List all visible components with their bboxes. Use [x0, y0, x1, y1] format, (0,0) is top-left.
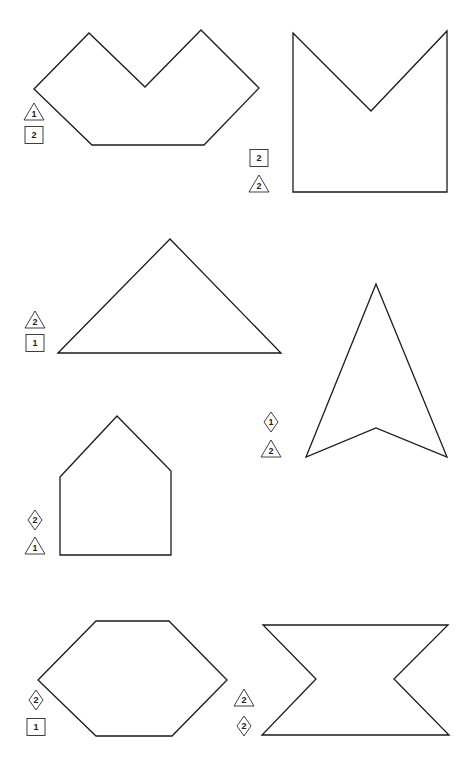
hexagon-outline — [38, 621, 227, 736]
diamond-marker-icon: 2 — [28, 510, 42, 530]
square-marker-icon: 1 — [26, 335, 44, 352]
marker-label: 1 — [32, 543, 37, 553]
figure-hexagon: 21 — [27, 621, 227, 736]
marker-label: 1 — [32, 338, 37, 348]
figure-v-notched-hexagon: 12 — [24, 30, 259, 145]
marker-label: 2 — [256, 153, 261, 163]
triangle-marker-icon: 2 — [261, 440, 281, 457]
triangle-marker-icon: 1 — [24, 103, 44, 120]
square-marker-icon: 1 — [27, 719, 45, 736]
diamond-marker-icon: 2 — [237, 716, 251, 736]
marker-label: 2 — [268, 446, 273, 456]
arrowhead-outline — [306, 284, 447, 457]
marker-label: 2 — [31, 130, 36, 140]
figure-arrowhead: 12 — [261, 284, 447, 457]
square-marker-icon: 2 — [250, 150, 268, 167]
triangle-marker-icon: 2 — [249, 175, 269, 192]
marker-label: 2 — [256, 181, 261, 191]
diamond-marker-icon: 2 — [29, 690, 43, 710]
marker-label: 1 — [33, 722, 38, 732]
figure-canvas: 12222112212122 — [0, 0, 474, 765]
marker-label: 1 — [268, 417, 273, 427]
diamond-marker-icon: 1 — [264, 412, 278, 432]
isosceles-triangle-outline — [58, 239, 281, 353]
figure-notched-bowtie: 22 — [234, 625, 449, 736]
marker-label: 2 — [33, 695, 38, 705]
house-pentagon-outline — [60, 416, 171, 555]
marker-label: 2 — [32, 515, 37, 525]
figure-isosceles-triangle: 21 — [25, 239, 281, 353]
v-notched-hexagon-outline — [34, 30, 259, 145]
square-marker-icon: 2 — [25, 127, 43, 144]
m-notched-square-outline — [293, 31, 447, 192]
marker-label: 2 — [241, 695, 246, 705]
triangle-marker-icon: 2 — [234, 689, 254, 706]
figure-m-notched-square: 22 — [249, 31, 447, 192]
triangle-marker-icon: 2 — [25, 311, 45, 328]
notched-bowtie-outline — [262, 625, 449, 735]
marker-label: 2 — [32, 317, 37, 327]
figure-house-pentagon: 21 — [25, 416, 171, 555]
triangle-marker-icon: 1 — [25, 537, 45, 554]
marker-label: 2 — [241, 721, 246, 731]
figures-layer: 12222112212122 — [24, 30, 449, 736]
marker-label: 1 — [31, 109, 36, 119]
